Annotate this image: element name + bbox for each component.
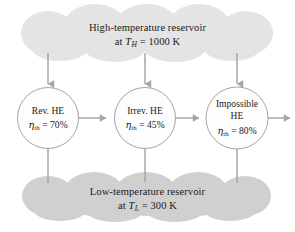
engine-name-impossible-he-line1: Impossible [205,99,269,110]
hot-temp-subscript: H [131,40,137,49]
cold-temp-subscript: L [134,204,139,213]
carnot-principle-diagram: High-temperature reservoir at TH = 1000 … [0,0,295,232]
eta-value-irrev-he: 45% [147,120,165,130]
cold-reservoir-temperature: at TL = 300 K [55,200,240,214]
engine-efficiency-impossible-he: ηth = 80% [205,125,269,138]
hot-temp-unit: K [173,36,181,47]
eta-subscript-impossible-he: th [223,130,229,137]
eta-value-impossible-he: 80% [239,126,257,136]
engine-name-rev-he: Rev. HE [18,106,78,117]
engine-efficiency-rev-he: ηth = 70% [18,119,78,132]
eta-subscript-rev-he: th [34,124,40,131]
eta-equals-irrev-he: = [139,120,144,130]
hot-temp-prefix: at [115,36,123,47]
cold-temp-prefix: at [118,200,126,211]
cold-temp-value: 300 [150,200,166,211]
hot-temp-equals: = [140,36,146,47]
engine-efficiency-irrev-he: ηth = 45% [115,119,175,132]
hot-temp-value: 1000 [148,36,169,47]
cold-temp-equals: = [142,200,148,211]
cold-reservoir-name: Low-temperature reservoir [55,186,240,198]
eta-equals-impossible-he: = [231,126,236,136]
engine-circle-irrev-he [115,88,176,149]
engine-name-irrev-he: Irrev. HE [115,106,175,117]
cold-temp-unit: K [169,200,177,211]
eta-value-rev-he: 70% [50,120,68,130]
engine-circle-rev-he [18,88,79,149]
eta-equals-rev-he: = [42,120,47,130]
hot-reservoir-name: High-temperature reservoir [55,22,240,34]
engine-name-impossible-he-line2: HE [205,111,269,122]
eta-subscript-irrev-he: th [131,124,137,131]
hot-reservoir-temperature: at TH = 1000 K [55,36,240,50]
